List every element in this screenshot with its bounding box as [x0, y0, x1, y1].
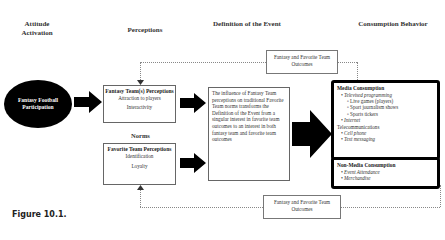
fantasy-team-perceptions-box: Fantasy Team(s) Perceptions Attraction t…: [103, 85, 176, 123]
square-bullet-icon: ▫: [347, 104, 349, 110]
non-media-consumption-title: Non-Media Consumption: [337, 162, 434, 169]
definition-of-event-box: The influence of Fantasy Team perception…: [208, 87, 290, 181]
feedback-line: [338, 62, 357, 63]
favorite-team-perceptions-box: Favorite Team Perceptions Identification…: [103, 143, 176, 185]
feedback-line: [140, 189, 141, 207]
arrow-right-large-icon: [292, 110, 332, 158]
non-media-item-text: Event Attendance: [344, 169, 380, 175]
bullet-icon: •: [341, 136, 343, 142]
header-attitude-activation: Attitude Activation: [12, 20, 62, 38]
media-item: • Text messaging: [337, 136, 434, 142]
feedback-line: [341, 207, 440, 208]
non-media-item-text: Merchandise: [344, 175, 370, 181]
non-media-item: • Merchandise: [337, 175, 434, 181]
bullet-icon: •: [341, 130, 343, 136]
feedback-line: [140, 62, 266, 63]
arrowhead-down-icon: [137, 80, 144, 85]
arrow-right-icon: [180, 93, 206, 113]
media-consumption-box: Media Consumption • Televised programmin…: [331, 80, 440, 160]
fantasy-team-perceptions-title: Fantasy Team(s) Perceptions: [104, 88, 175, 95]
media-subitem-text: Sports tickers: [350, 111, 378, 117]
header-definition-of-event: Definition of the Event: [213, 20, 281, 29]
arrow-right-icon: [180, 153, 206, 173]
fantasy-team-item: Attraction to players: [104, 95, 175, 102]
outcomes-top-box: Fantasy and Favorite Team Outcomes: [266, 50, 338, 74]
favorite-team-item: Identification: [104, 153, 175, 160]
fantasy-football-participation-node: Fantasy Football Participation: [4, 80, 72, 128]
figure-caption: Figure 10.1.: [12, 210, 67, 219]
favorite-team-item: Loyalty: [104, 163, 175, 170]
definition-text: The influence of Fantasy Team perception…: [209, 88, 289, 145]
media-subitem-text: Live games (players): [350, 98, 393, 104]
header-perceptions: Perceptions: [115, 26, 175, 35]
header-consumption-behavior: Consumption Behavior: [358, 20, 428, 29]
arrowhead-up-icon: [137, 185, 144, 190]
norms-label: Norms: [118, 131, 163, 140]
feedback-line: [357, 62, 358, 80]
square-bullet-icon: ▫: [347, 111, 349, 117]
feedback-line: [440, 185, 441, 207]
bullet-icon: •: [341, 92, 343, 98]
media-item-text: Internet: [344, 117, 360, 123]
outcomes-bottom-box: Fantasy and Favorite Team Outcomes: [263, 195, 341, 219]
square-bullet-icon: ▫: [347, 98, 349, 104]
bullet-icon: •: [341, 175, 343, 181]
fantasy-team-item: Interactivity: [104, 104, 175, 111]
bullet-icon: •: [341, 117, 343, 123]
favorite-team-perceptions-title: Favorite Team Perceptions: [104, 146, 175, 153]
arrow-right-icon: [74, 91, 102, 113]
feedback-line: [140, 207, 263, 208]
non-media-consumption-box: Non-Media Consumption • Event Attendance…: [331, 157, 440, 189]
media-item-text: Televised programming: [344, 92, 392, 98]
media-item-text: Text messaging: [344, 136, 375, 142]
bullet-icon: •: [341, 169, 343, 175]
media-consumption-title: Media Consumption: [337, 85, 434, 92]
media-item-text: Cell phone: [344, 130, 366, 136]
media-subitem-text: Sport journalism shows: [350, 104, 398, 110]
